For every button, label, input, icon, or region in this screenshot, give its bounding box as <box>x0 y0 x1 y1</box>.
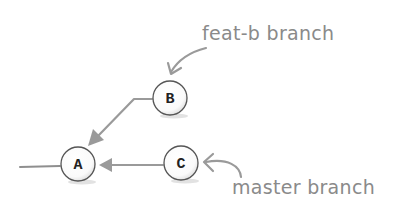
master-branch-label: master branch <box>232 176 375 198</box>
edge-c-to-a-arrow <box>99 158 163 172</box>
commit-node-b[interactable]: B <box>153 81 188 119</box>
node-label-c: C <box>176 156 185 173</box>
history-line <box>20 166 60 167</box>
commit-node-c[interactable]: C <box>164 146 199 184</box>
git-branch-diagram: A B C feat-b branch master branch <box>0 0 399 203</box>
commit-node-a[interactable]: A <box>61 147 96 185</box>
edge-b-to-a-arrow <box>88 99 152 146</box>
master-annotation: master branch <box>204 154 375 198</box>
curved-arrow-icon <box>171 48 206 72</box>
feat-b-branch-label: feat-b branch <box>202 22 334 44</box>
node-label-a: A <box>73 157 82 174</box>
feat-b-annotation: feat-b branch <box>168 22 334 74</box>
node-label-b: B <box>165 91 174 108</box>
